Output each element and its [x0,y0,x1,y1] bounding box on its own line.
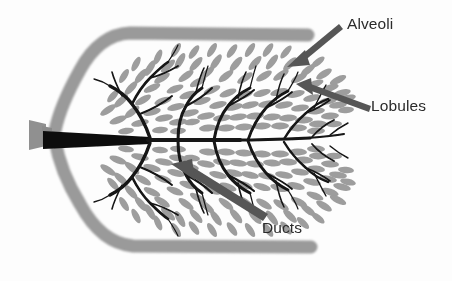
label-ducts: Ducts [262,220,302,236]
label-alveoli: Alveoli [347,16,393,32]
breast-anatomy-figure [0,0,452,281]
diagram-canvas: Alveoli Lobules Ducts [0,0,452,281]
label-lobules: Lobules [371,98,426,114]
